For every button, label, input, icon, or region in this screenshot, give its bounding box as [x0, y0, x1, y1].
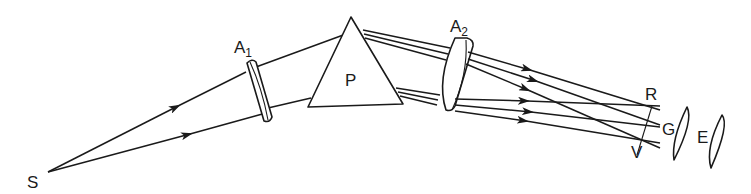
label-a1: A1	[234, 38, 252, 60]
label-red: R	[645, 85, 657, 104]
label-source: S	[27, 173, 38, 192]
eyepiece-lens-2	[709, 115, 724, 168]
dispersed-upper-bundle	[363, 30, 450, 60]
incident-rays	[48, 72, 266, 172]
label-green: G	[662, 120, 675, 139]
prism	[308, 17, 403, 107]
label-eyepiece: E	[697, 128, 708, 147]
focused-rays	[455, 52, 660, 148]
label-violet: V	[631, 143, 643, 162]
eyepiece-lens-1	[674, 107, 689, 160]
spectroscope-diagram: S A1 P A2 R G V E	[0, 0, 751, 194]
label-prism: P	[345, 71, 356, 90]
lens-a1	[247, 60, 272, 121]
label-a2: A2	[450, 17, 468, 39]
